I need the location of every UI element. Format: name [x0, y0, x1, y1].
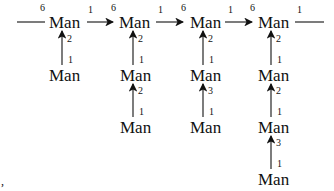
out-index: 1: [297, 5, 302, 15]
out-index: 1: [158, 5, 163, 15]
head-index: 2: [138, 34, 143, 44]
tail-index: 1: [209, 55, 214, 65]
node-man: Man: [258, 14, 289, 31]
tail-index: 1: [139, 107, 144, 117]
tail-index: 1: [277, 107, 282, 117]
node-man: Man: [120, 67, 151, 84]
node-man: Man: [49, 14, 80, 31]
head-index: 2: [138, 86, 143, 96]
node-man: Man: [258, 67, 289, 84]
node-man: Man: [49, 67, 80, 84]
in-index: 6: [250, 3, 255, 13]
tail-index: 1: [139, 55, 144, 65]
in-index: 6: [181, 3, 186, 13]
head-index: 3: [276, 138, 281, 148]
node-man: Man: [258, 119, 289, 136]
head-index: 2: [276, 34, 281, 44]
node-man: Man: [190, 14, 221, 31]
node-man: Man: [258, 171, 289, 188]
tail-index: 1: [209, 107, 214, 117]
head-index: 3: [208, 86, 213, 96]
node-man: Man: [190, 67, 221, 84]
node-man: Man: [120, 119, 151, 136]
in-index: 6: [40, 3, 45, 13]
head-index: 2: [208, 34, 213, 44]
out-index: 1: [88, 5, 93, 15]
in-index: 6: [111, 3, 116, 13]
out-index: 1: [228, 5, 233, 15]
head-index: 2: [276, 86, 281, 96]
tail-index: 1: [68, 55, 73, 65]
tail-index: 1: [277, 159, 282, 169]
stray-mark: ,: [1, 176, 4, 186]
node-man: Man: [119, 14, 150, 31]
tail-index: 1: [277, 55, 282, 65]
head-index: 2: [67, 34, 72, 44]
node-man: Man: [190, 119, 221, 136]
